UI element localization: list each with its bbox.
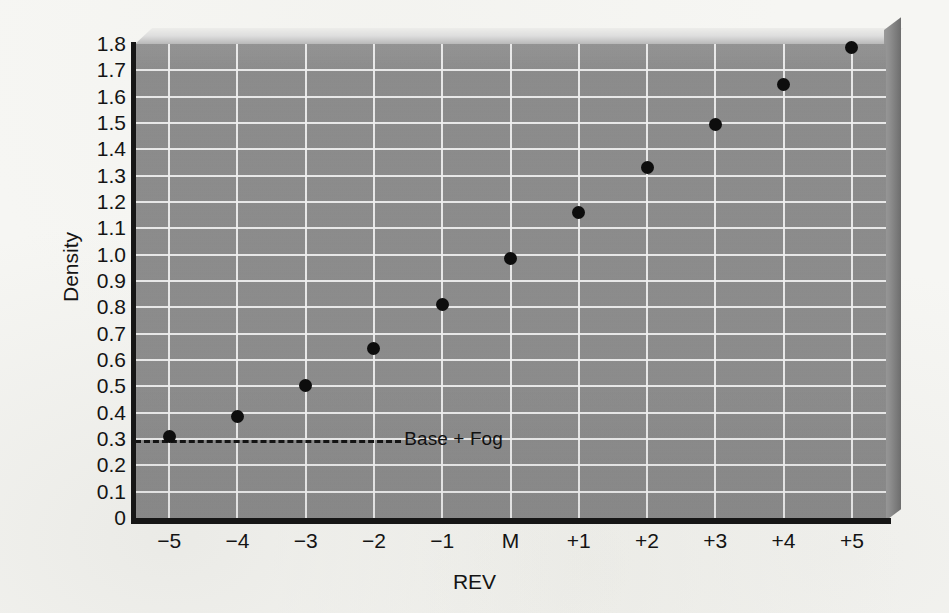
data-point [845,41,858,54]
x-tick-label: −2 [362,530,386,551]
y-axis-title: Density [59,232,83,302]
plot-area: Base + Fog [135,44,886,518]
x-tick-label: M [502,530,520,551]
y-tick-label: 0 [114,507,126,528]
gridline-vertical [851,44,853,518]
x-tick-label: +2 [635,530,659,551]
y-tick-label: 0.6 [97,349,126,370]
y-tick-label: 1.8 [97,33,126,54]
gridline-vertical [714,44,716,518]
chart-page: Base + Fog 1.81.71.61.51.41.31.21.11.00.… [0,0,949,613]
data-point [709,118,722,131]
y-tick-label: 0.3 [97,428,126,449]
data-point [777,78,790,91]
data-point [367,342,380,355]
gridline-vertical [236,44,238,518]
gridline-vertical [578,44,580,518]
data-point [231,410,244,423]
x-tick-label: +1 [567,530,591,551]
y-tick-label: 0.5 [97,375,126,396]
y-tick-label: 0.1 [97,481,126,502]
y-tick-label: 0.9 [97,270,126,291]
data-point [641,161,654,174]
x-axis-line [131,518,891,524]
y-tick-label: 1.0 [97,244,126,265]
y-tick-label: 1.2 [97,191,126,212]
y-tick-label: 1.6 [97,86,126,107]
data-point [299,379,312,392]
y-tick-label: 0.8 [97,296,126,317]
data-point [572,206,585,219]
x-tick-label: +5 [840,530,864,551]
y-tick-label: 1.1 [97,217,126,238]
x-axis-title: REV [0,570,949,594]
y-tick-label: 1.5 [97,112,126,133]
y-tick-label: 1.3 [97,165,126,186]
gridline-vertical [646,44,648,518]
y-tick-label: 1.7 [97,59,126,80]
y-tick-label: 0.2 [97,454,126,475]
data-point [504,252,517,265]
y-axis-tick-labels: 1.81.71.61.51.41.31.21.11.00.90.80.70.60… [0,0,126,613]
gridline-vertical [168,44,170,518]
x-tick-label: −5 [157,530,181,551]
gridline-vertical [510,44,512,518]
data-point [436,298,449,311]
x-tick-label: −3 [294,530,318,551]
y-tick-label: 1.4 [97,138,126,159]
gridline-vertical [305,44,307,518]
gridline-vertical [783,44,785,518]
x-tick-label: +3 [703,530,727,551]
x-tick-label: −4 [225,530,249,551]
gridline-vertical [373,44,375,518]
y-axis-line [131,42,136,524]
y-tick-label: 0.7 [97,323,126,344]
base-fog-label: Base + Fog [404,428,503,450]
plot-top-bevel [135,28,903,44]
x-tick-label: −1 [430,530,454,551]
x-tick-label: +4 [772,530,796,551]
y-tick-label: 0.4 [97,402,126,423]
plot-right-bevel [884,17,901,522]
data-point [163,430,176,443]
base-fog-line [135,440,401,443]
